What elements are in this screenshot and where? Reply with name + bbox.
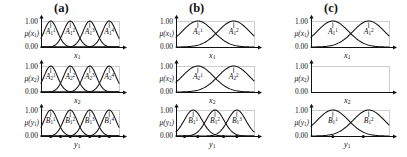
y-axis-label-sub: 1 bbox=[304, 121, 307, 127]
y-tick-min-a-row3: 0.00 bbox=[0, 132, 38, 139]
panel-c: (c)1.000.00μ(x1)A11A12x11.000.00μ(x2)x21… bbox=[270, 0, 407, 157]
plot-c-row1 bbox=[311, 21, 397, 53]
y-tick-max-b-row2: 1.00 bbox=[135, 63, 173, 70]
membership-curve bbox=[176, 21, 254, 47]
membership-curve bbox=[311, 110, 389, 136]
membership-function-figure: (a)1.000.00μ(x1)A11A12A13A14x11.000.00μ(… bbox=[0, 0, 407, 157]
y-axis-label-c-row1: μ(x1) bbox=[270, 30, 309, 38]
y-tick-min-b-row3: 0.00 bbox=[135, 132, 173, 139]
y-axis-label-base: μ(y bbox=[24, 118, 33, 127]
y-axis-arrow bbox=[39, 15, 43, 19]
y-axis-label-sub: 1 bbox=[304, 32, 307, 38]
y-tick-min-c-row3: 0.00 bbox=[270, 132, 308, 139]
set-label-sup: 2 bbox=[217, 116, 220, 122]
fuzzy-set-label: A21 bbox=[46, 73, 56, 82]
x-axis-label-sub: 1 bbox=[213, 143, 216, 149]
fuzzy-set-label: B11 bbox=[46, 117, 56, 126]
plot-frame bbox=[312, 67, 390, 93]
y-axis-label-a-row1: μ(x1) bbox=[0, 30, 39, 38]
y-tick-min-b-row1: 0.00 bbox=[135, 43, 173, 50]
y-axis-arrow bbox=[309, 104, 313, 108]
fuzzy-set-label: A22 bbox=[229, 73, 239, 82]
y-axis-label-sub: 1 bbox=[169, 32, 172, 38]
fuzzy-set-label: B12 bbox=[364, 117, 374, 126]
y-axis-label-base: μ(x bbox=[159, 29, 168, 38]
panel-label-a: (a) bbox=[54, 2, 69, 15]
panel-label-b: (b) bbox=[189, 2, 204, 15]
fuzzy-set-label: A23 bbox=[85, 73, 95, 82]
set-label-sup: 2 bbox=[371, 116, 374, 122]
y-tick-max-c-row2: 1.00 bbox=[270, 63, 308, 70]
y-axis-arrow bbox=[174, 15, 178, 19]
set-label-sup: 2 bbox=[236, 72, 239, 78]
axis-sample-dot bbox=[49, 135, 52, 138]
set-label-sup: 3 bbox=[92, 27, 95, 33]
axis-sample-dot bbox=[88, 135, 91, 138]
fuzzy-set-label: A22 bbox=[65, 73, 75, 82]
axis-sample-dot bbox=[235, 135, 238, 138]
fuzzy-set-label: A12 bbox=[229, 28, 239, 37]
y-axis-label-base: μ(x bbox=[159, 74, 168, 83]
y-axis-arrow bbox=[174, 60, 178, 64]
x-axis-arrow bbox=[123, 134, 127, 138]
set-label-sup: 4 bbox=[112, 27, 115, 33]
x-axis-label-sub: 1 bbox=[78, 143, 81, 149]
y-tick-min-c-row2: 0.00 bbox=[270, 88, 308, 95]
x-axis-label-c-row1: x1 bbox=[344, 52, 350, 61]
y-axis-label-base: μ(y bbox=[294, 118, 303, 127]
y-tick-max-a-row1: 1.00 bbox=[0, 18, 38, 25]
x-axis-label-sub: 1 bbox=[348, 54, 351, 60]
y-axis-label-sub: 2 bbox=[169, 77, 172, 83]
axis-sample-dot bbox=[98, 135, 101, 138]
set-label-sup: 3 bbox=[239, 116, 242, 122]
y-axis-label-sub: 2 bbox=[304, 77, 307, 83]
set-label-sup: 1 bbox=[335, 27, 338, 33]
set-label-sup: 1 bbox=[200, 27, 203, 33]
x-axis-label-sub: 1 bbox=[348, 143, 351, 149]
y-axis-arrow bbox=[309, 15, 313, 19]
x-axis-arrow bbox=[258, 90, 262, 94]
y-tick-max-c-row1: 1.00 bbox=[270, 18, 308, 25]
axis-sample-dot bbox=[78, 135, 81, 138]
x-axis-label-b-row3: y1 bbox=[209, 141, 215, 150]
y-tick-min-c-row1: 0.00 bbox=[270, 43, 308, 50]
plot-a-row1 bbox=[41, 21, 127, 53]
axis-sample-dot bbox=[362, 135, 365, 138]
set-label-sup: 2 bbox=[73, 72, 76, 78]
fuzzy-set-label: B11 bbox=[188, 117, 198, 126]
x-axis-label-a-row3: y1 bbox=[74, 141, 80, 150]
y-axis-label-c-row3: μ(y1) bbox=[270, 119, 309, 127]
x-axis-label-b-row1: x1 bbox=[209, 52, 215, 61]
y-tick-max-a-row3: 1.00 bbox=[0, 107, 38, 114]
plot-a-row3 bbox=[41, 110, 127, 142]
fuzzy-set-label: B12 bbox=[210, 117, 220, 126]
set-label-sup: 1 bbox=[195, 116, 198, 122]
set-label-sup: 1 bbox=[335, 116, 338, 122]
fuzzy-set-label: A13 bbox=[85, 28, 95, 37]
x-axis-label-b-row2: x2 bbox=[209, 97, 215, 106]
fuzzy-set-label: A12 bbox=[65, 28, 75, 37]
x-axis-arrow bbox=[123, 45, 127, 49]
y-tick-max-c-row3: 1.00 bbox=[270, 107, 308, 114]
plot-b-row2 bbox=[176, 66, 262, 98]
fuzzy-set-label: A11 bbox=[193, 28, 203, 37]
fuzzy-set-label: B14 bbox=[104, 117, 114, 126]
x-axis-arrow bbox=[393, 90, 397, 94]
panel-label-c: (c) bbox=[324, 2, 338, 15]
x-axis-label-c-row3: y1 bbox=[344, 141, 350, 150]
panel-b: (b)1.000.00μ(x1)A11A12x11.000.00μ(x2)A21… bbox=[135, 0, 270, 157]
x-axis-label-sub: 2 bbox=[348, 99, 351, 105]
axis-sample-dot bbox=[331, 135, 334, 138]
plot-c-row3 bbox=[311, 110, 397, 142]
fuzzy-set-label: B12 bbox=[65, 117, 75, 126]
y-axis-label-a-row2: μ(x2) bbox=[0, 75, 39, 83]
set-label-sup: 4 bbox=[112, 72, 115, 78]
set-label-sup: 2 bbox=[73, 116, 76, 122]
x-axis-label-sub: 1 bbox=[78, 54, 81, 60]
fuzzy-set-label: B13 bbox=[85, 117, 95, 126]
axis-sample-dot bbox=[108, 135, 111, 138]
set-label-sup: 1 bbox=[53, 116, 56, 122]
plot-b-row1 bbox=[176, 21, 262, 53]
y-axis-label-b-row2: μ(x2) bbox=[135, 75, 174, 83]
fuzzy-set-label: A24 bbox=[104, 73, 114, 82]
